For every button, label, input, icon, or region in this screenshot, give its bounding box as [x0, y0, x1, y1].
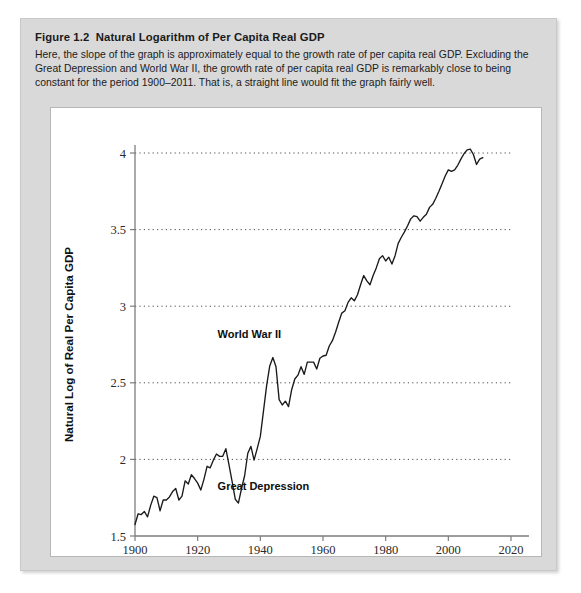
- gdp-series-line: [135, 149, 483, 524]
- x-tick-labels-group: 1900192019401960198020002020: [123, 543, 524, 556]
- x-tick-label: 1900: [123, 543, 148, 556]
- x-tick-label: 2000: [436, 543, 461, 556]
- y-axis-title: Natural Log of Real Per Capita GDP: [62, 247, 75, 442]
- figure-caption: Figure 1.2 Natural Logarithm of Per Capi…: [35, 30, 543, 91]
- y-tick-marks-group: [130, 153, 135, 536]
- x-tick-label: 1980: [373, 543, 398, 556]
- y-tick-label: 2: [120, 453, 126, 467]
- x-tick-label: 1960: [311, 543, 336, 556]
- y-tick-labels-group: 1.522.533.54: [110, 147, 126, 544]
- x-tick-label: 2020: [499, 543, 524, 556]
- figure-caption-title: Figure 1.2 Natural Logarithm of Per Capi…: [35, 30, 543, 44]
- y-tick-label: 4: [120, 147, 127, 161]
- x-tick-label: 1940: [248, 543, 273, 556]
- gridlines-group: [135, 153, 511, 459]
- x-tick-label: 1920: [185, 543, 210, 556]
- y-tick-label: 1.5: [110, 530, 126, 544]
- chart-annotation: Great Depression: [218, 480, 310, 492]
- plot-container: 1900192019401960198020002020 1.522.533.5…: [50, 107, 542, 557]
- chart-annotation: World War II: [218, 328, 282, 340]
- figure-number: Figure 1.2: [35, 31, 89, 43]
- y-tick-label: 3.5: [110, 223, 126, 237]
- figure-title-text: Natural Logarithm of Per Capita Real GDP: [96, 31, 325, 43]
- figure-caption-body: Here, the slope of the graph is approxim…: [35, 48, 543, 91]
- y-tick-label: 2.5: [110, 376, 126, 390]
- x-tick-marks-group: [135, 536, 511, 541]
- gdp-line-chart: 1900192019401960198020002020 1.522.533.5…: [51, 108, 541, 556]
- y-tick-label: 3: [120, 300, 126, 314]
- figure-card: Figure 1.2 Natural Logarithm of Per Capi…: [20, 18, 557, 571]
